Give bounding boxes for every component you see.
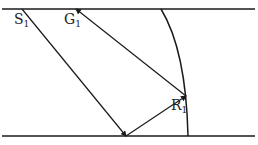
ray-diagram: S1 G1 R1 xyxy=(0,0,258,145)
curved-boundary xyxy=(161,9,188,136)
label-s1: S1 xyxy=(14,11,29,29)
label-g1: G1 xyxy=(64,11,81,29)
ray-s1-to-bottom xyxy=(22,9,126,136)
ray-r1-to-g1 xyxy=(76,9,186,96)
label-r1: R1 xyxy=(171,97,187,115)
